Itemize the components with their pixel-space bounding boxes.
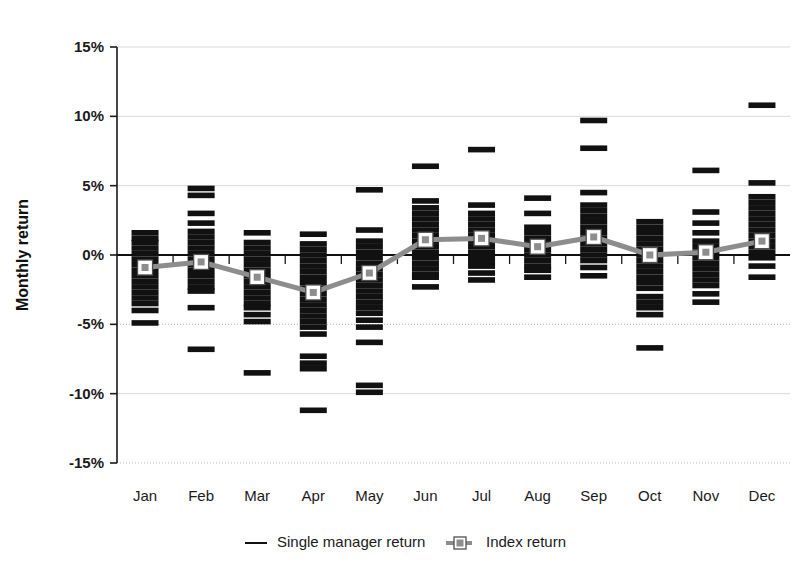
manager-column-mar [244, 230, 271, 376]
manager-return-mark [188, 220, 215, 226]
index-marker-inner [310, 289, 317, 296]
manager-return-mark [636, 299, 663, 305]
manager-return-mark [356, 389, 383, 395]
index-marker-inner [758, 238, 765, 245]
legend-label-index: Index return [486, 533, 566, 550]
manager-return-mark [748, 249, 775, 255]
manager-return-mark [748, 227, 775, 233]
manager-return-mark [412, 261, 439, 267]
manager-return-mark [748, 211, 775, 217]
manager-return-mark [356, 249, 383, 255]
index-marker-inner [254, 274, 261, 281]
manager-return-mark [356, 244, 383, 250]
manager-return-mark [412, 205, 439, 211]
manager-return-mark [636, 280, 663, 286]
manager-column-may [356, 187, 383, 395]
y-axis-title: Monthly return [14, 199, 31, 311]
manager-return-mark [244, 370, 271, 376]
manager-return-mark [356, 310, 383, 316]
x-tick-label-jul: Jul [472, 487, 491, 504]
manager-column-oct [636, 219, 663, 351]
manager-return-mark [132, 301, 159, 307]
manager-return-mark [524, 230, 551, 236]
index-return-line [145, 237, 762, 292]
index-marker-nov [698, 245, 713, 260]
manager-return-mark [636, 263, 663, 269]
manager-return-mark [300, 231, 327, 237]
manager-return-mark [412, 198, 439, 204]
manager-return-mark [300, 258, 327, 264]
manager-return-mark [356, 255, 383, 261]
x-tick-label-jan: Jan [133, 487, 157, 504]
manager-return-mark [300, 319, 327, 325]
manager-return-mark [412, 216, 439, 222]
manager-return-mark [636, 219, 663, 225]
manager-return-mark [524, 211, 551, 217]
manager-return-mark [524, 195, 551, 201]
manager-return-mark [300, 313, 327, 319]
manager-return-mark [636, 274, 663, 280]
monthly-return-chart: 15%10%5%0%-5%-10%-15%Monthly returnJanFe… [0, 0, 811, 587]
manager-return-mark [188, 240, 215, 246]
manager-return-mark [132, 245, 159, 251]
manager-return-mark [468, 211, 495, 217]
manager-return-mark [748, 180, 775, 186]
manager-return-mark [244, 262, 271, 268]
manager-return-mark [132, 284, 159, 290]
manager-return-mark [188, 305, 215, 311]
manager-return-mark [188, 229, 215, 235]
manager-return-mark [412, 222, 439, 228]
manager-return-mark [748, 255, 775, 261]
index-marker-apr [306, 285, 321, 300]
manager-return-mark [300, 241, 327, 247]
manager-return-mark [692, 266, 719, 272]
manager-return-mark [468, 270, 495, 276]
manager-return-mark [636, 285, 663, 291]
manager-return-mark [244, 305, 271, 311]
manager-return-mark [692, 272, 719, 278]
index-marker-inner [702, 249, 709, 256]
manager-return-mark [748, 263, 775, 269]
manager-return-mark [244, 312, 271, 318]
x-tick-label-dec: Dec [749, 487, 776, 504]
manager-return-mark [356, 227, 383, 233]
manager-return-mark [524, 267, 551, 273]
manager-return-mark [580, 118, 607, 124]
x-tick-label-nov: Nov [693, 487, 720, 504]
manager-column-nov [692, 168, 719, 305]
manager-return-mark [300, 331, 327, 337]
x-tick-label-oct: Oct [638, 487, 662, 504]
index-marker-aug [530, 239, 545, 254]
manager-return-mark [636, 294, 663, 300]
manager-return-mark [356, 283, 383, 289]
manager-column-dec [748, 102, 775, 280]
manager-return-mark [412, 211, 439, 217]
manager-return-mark [412, 274, 439, 280]
manager-return-mark [132, 290, 159, 296]
manager-return-mark [300, 247, 327, 253]
manager-return-mark [356, 305, 383, 311]
manager-return-mark [188, 186, 215, 192]
manager-return-mark [748, 102, 775, 108]
index-marker-inner [590, 233, 597, 240]
x-tick-label-sep: Sep [580, 487, 607, 504]
manager-return-mark [132, 279, 159, 285]
manager-return-mark [132, 251, 159, 257]
manager-return-mark [188, 234, 215, 240]
manager-return-mark [748, 205, 775, 211]
manager-return-mark [412, 255, 439, 261]
manager-return-mark [300, 308, 327, 314]
index-marker-inner [534, 243, 541, 250]
y-tick-label: 5% [82, 177, 104, 194]
manager-return-mark [636, 312, 663, 318]
manager-return-mark [244, 240, 271, 246]
manager-return-mark [580, 190, 607, 196]
manager-return-mark [580, 145, 607, 151]
index-marker-jun [418, 232, 433, 247]
manager-return-mark [300, 366, 327, 372]
manager-return-mark [580, 265, 607, 271]
manager-return-mark [692, 261, 719, 267]
manager-return-mark [636, 241, 663, 247]
manager-return-mark [300, 408, 327, 414]
index-marker-mar [250, 270, 265, 285]
